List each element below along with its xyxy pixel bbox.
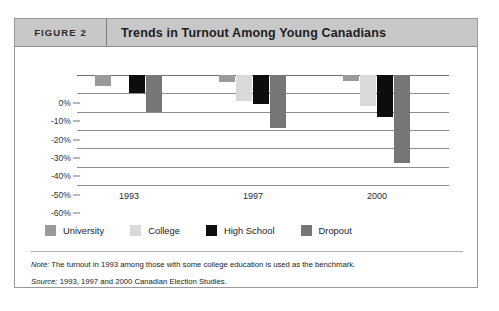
bar: [129, 75, 145, 93]
legend-item: Dropout: [301, 225, 352, 236]
bar: [270, 75, 286, 128]
gridline: [77, 185, 449, 186]
bar: [146, 75, 162, 112]
figure-title: Trends in Turnout Among Young Canadians: [107, 19, 477, 46]
legend-item: University: [45, 225, 104, 236]
legend-item: College: [130, 225, 180, 236]
y-axis-tick-label: -20%: [25, 135, 71, 145]
note-text: The turnout in 1993 among those with som…: [49, 260, 355, 269]
bar: [236, 75, 252, 101]
bar: [343, 75, 359, 81]
plot-area: [77, 75, 449, 185]
bar: [253, 75, 269, 104]
chart-body: 0%-10%-20%-30%-40%-50%-60% UniversityCol…: [15, 47, 477, 287]
source-text: 1993, 1997 and 2000 Canadian Election St…: [58, 277, 227, 286]
y-axis-tick-label: -50%: [25, 190, 71, 200]
chart-legend: UniversityCollegeHigh SchoolDropout: [45, 225, 378, 236]
y-axis-tick-label: -10%: [25, 116, 71, 126]
legend-label: College: [148, 225, 180, 236]
bar: [394, 75, 410, 163]
y-axis: 0%-10%-20%-30%-40%-50%-60%: [23, 75, 71, 185]
y-axis-tick-label: -60%: [25, 208, 71, 218]
source-label: Source:: [31, 277, 58, 286]
bar-group: [95, 75, 162, 185]
legend-swatch: [45, 225, 56, 236]
y-axis-tick-label: -40%: [25, 171, 71, 181]
figure-header: FIGURE 2 Trends in Turnout Among Young C…: [15, 19, 477, 47]
bar: [95, 75, 111, 86]
figure-container: FIGURE 2 Trends in Turnout Among Young C…: [14, 18, 478, 288]
source-line: Source: 1993, 1997 and 2000 Canadian Ele…: [31, 277, 463, 287]
legend-swatch: [130, 225, 141, 236]
note-label: Note:: [31, 260, 49, 269]
y-axis-tick-label: 0%: [25, 98, 71, 108]
legend-swatch: [206, 225, 217, 236]
bar-group: [343, 75, 410, 185]
bar: [360, 75, 376, 106]
legend-label: High School: [224, 225, 275, 236]
x-axis-tick-label: 2000: [342, 191, 412, 201]
y-axis-tick-mark: [73, 213, 80, 214]
legend-swatch: [301, 225, 312, 236]
bar: [219, 75, 235, 82]
x-axis-tick-label: 1997: [218, 191, 288, 201]
figure-number-label: FIGURE 2: [15, 19, 107, 46]
y-axis-tick-mark: [73, 194, 80, 195]
legend-item: High School: [206, 225, 275, 236]
bar-group: [219, 75, 286, 185]
bar: [377, 75, 393, 117]
legend-label: Dropout: [319, 225, 352, 236]
x-axis-tick-label: 1993: [94, 191, 164, 201]
note-line: Note: The turnout in 1993 among those wi…: [31, 260, 463, 270]
figure-notes: Note: The turnout in 1993 among those wi…: [31, 251, 463, 293]
y-axis-tick-label: -30%: [25, 153, 71, 163]
legend-label: University: [63, 225, 104, 236]
